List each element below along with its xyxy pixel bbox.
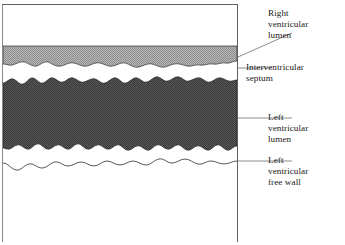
label-line: lumen: [268, 134, 308, 145]
label-line: Left: [268, 112, 308, 123]
label-line: septum: [246, 73, 304, 84]
label-line: lumen: [268, 30, 308, 41]
band-left-ventricular-lumen: [3, 77, 237, 150]
label-interventricular-septum: Interventricular septum: [246, 62, 304, 84]
free-wall-outline: [3, 159, 237, 170]
label-line: ventricular: [268, 166, 308, 177]
label-left-ventricular-free-wall: Left ventricular free wall: [268, 155, 308, 189]
label-right-ventricular-lumen: Right ventricular lumen: [268, 8, 308, 42]
label-line: ventricular: [268, 123, 308, 134]
label-line: Interventricular: [246, 62, 304, 73]
label-line: ventricular: [268, 19, 308, 30]
label-line: Left: [268, 155, 308, 166]
label-left-ventricular-lumen: Left ventricular lumen: [268, 112, 308, 146]
label-line: Right: [268, 8, 308, 19]
band-interventricular-septum: [3, 46, 237, 67]
figure-root: Right ventricular lumen Interventricular…: [0, 0, 345, 245]
label-line: free wall: [268, 177, 308, 188]
